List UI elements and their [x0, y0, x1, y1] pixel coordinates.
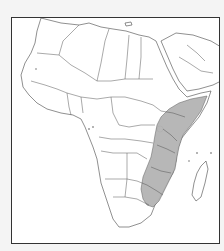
map-frame — [11, 17, 220, 244]
island-dot — [210, 152, 212, 154]
africa-map — [12, 18, 220, 244]
island-dot — [88, 128, 90, 130]
island-dot — [196, 152, 198, 154]
mediterranean-islands — [125, 22, 132, 26]
island-dot — [92, 126, 94, 128]
madagascar — [192, 161, 208, 201]
island-dot — [35, 68, 36, 69]
island-dot — [188, 160, 189, 161]
